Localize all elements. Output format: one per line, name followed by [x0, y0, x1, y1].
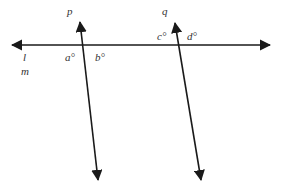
- angle-a: a°: [65, 52, 75, 63]
- label-l: l: [23, 52, 26, 63]
- label-p: p: [67, 6, 73, 17]
- label-q: q: [162, 6, 168, 17]
- diagram-canvas: p q l m a° b° c° d°: [0, 0, 282, 187]
- line-q: [175, 23, 201, 180]
- angle-b: b°: [95, 52, 105, 63]
- lines-svg: [0, 0, 282, 187]
- label-m: m: [21, 66, 29, 77]
- angle-c: c°: [157, 31, 166, 42]
- angle-d: d°: [187, 31, 197, 42]
